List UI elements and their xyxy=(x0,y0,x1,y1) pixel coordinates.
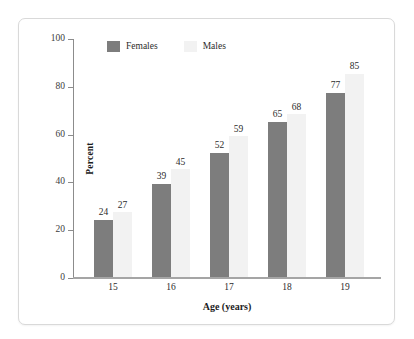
chart-figure-frame: Females Males Percent 020406080100 24271… xyxy=(18,18,395,325)
bar-rect[interactable] xyxy=(326,93,345,277)
bar-rect[interactable] xyxy=(268,122,287,277)
bar-rect[interactable] xyxy=(94,220,113,277)
x-tick-label-19: 19 xyxy=(319,283,371,293)
bar-females-15[interactable]: 24 xyxy=(94,220,113,277)
bar-rect[interactable] xyxy=(345,74,364,277)
bar-value-label: 68 xyxy=(292,103,302,113)
bar-males-16[interactable]: 45 xyxy=(171,169,190,277)
bar-rect[interactable] xyxy=(113,212,132,277)
x-axis-line xyxy=(73,277,381,279)
y-tick-mark xyxy=(68,39,73,40)
y-tick-mark xyxy=(68,135,73,136)
bar-value-label: 52 xyxy=(215,141,225,151)
y-tick-mark xyxy=(68,87,73,88)
bar-males-18[interactable]: 68 xyxy=(287,114,306,277)
bar-males-19[interactable]: 85 xyxy=(345,74,364,277)
bar-females-17[interactable]: 52 xyxy=(210,153,229,277)
bar-males-17[interactable]: 59 xyxy=(229,136,248,277)
bar-group-19: 7785 xyxy=(319,74,371,277)
x-tick-label-18: 18 xyxy=(261,283,313,293)
bar-rect[interactable] xyxy=(152,184,171,277)
bar-value-label: 59 xyxy=(234,125,244,135)
bar-value-label: 65 xyxy=(273,110,283,120)
bar-females-16[interactable]: 39 xyxy=(152,184,171,277)
bar-group-17: 5259 xyxy=(203,136,255,277)
bar-value-label: 77 xyxy=(331,81,341,91)
bar-group-18: 6568 xyxy=(261,114,313,277)
y-tick-label: 100 xyxy=(51,34,65,44)
plot-area: Percent 020406080100 2427153945165259176… xyxy=(73,39,381,278)
bar-females-19[interactable]: 77 xyxy=(326,93,345,277)
bar-value-label: 45 xyxy=(176,158,186,168)
bar-males-15[interactable]: 27 xyxy=(113,212,132,277)
bar-rect[interactable] xyxy=(171,169,190,277)
y-tick-label: 60 xyxy=(56,130,66,140)
bar-rect[interactable] xyxy=(210,153,229,277)
bar-group-15: 2427 xyxy=(87,212,139,277)
bar-rect[interactable] xyxy=(229,136,248,277)
y-tick-label: 20 xyxy=(56,225,66,235)
x-tick-label-16: 16 xyxy=(145,283,197,293)
bar-value-label: 27 xyxy=(118,201,128,211)
y-tick-mark xyxy=(68,182,73,183)
y-tick-label: 40 xyxy=(56,178,66,188)
bar-rect[interactable] xyxy=(287,114,306,277)
y-tick-label: 0 xyxy=(60,273,65,283)
y-tick-label: 80 xyxy=(56,82,66,92)
bar-value-label: 85 xyxy=(350,62,360,72)
bar-value-label: 39 xyxy=(157,172,167,182)
x-tick-label-17: 17 xyxy=(203,283,255,293)
x-axis-title: Age (years) xyxy=(73,301,381,312)
y-tick-mark xyxy=(68,230,73,231)
y-axis-line xyxy=(73,39,74,278)
bar-females-18[interactable]: 65 xyxy=(268,122,287,277)
bar-group-16: 3945 xyxy=(145,169,197,277)
bar-value-label: 24 xyxy=(99,208,109,218)
x-tick-label-15: 15 xyxy=(87,283,139,293)
y-tick-mark xyxy=(68,278,73,279)
